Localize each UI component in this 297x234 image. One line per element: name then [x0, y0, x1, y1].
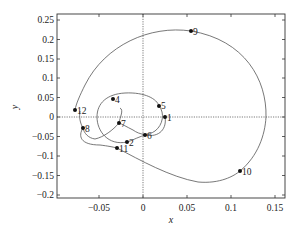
point-label: 7 — [121, 119, 126, 129]
y-tick-labels: 0.25 0.2 0.15 0.1 0.05 0 −0.05 −0.1 −0.1… — [32, 15, 54, 200]
point-label: 11 — [119, 144, 128, 154]
point-label: 10 — [242, 167, 252, 177]
y-tick-label: 0.1 — [42, 73, 54, 83]
point-label: 4 — [115, 95, 120, 105]
y-axis-title: y — [9, 104, 20, 110]
point-labels: 1 2 4 5 6 7 8 9 10 11 12 — [77, 27, 252, 177]
spiral-trajectory-chart: 0.25 0.2 0.15 0.1 0.05 0 −0.05 −0.1 −0.1… — [0, 0, 297, 234]
y-tick-label: 0.2 — [42, 35, 54, 45]
point-label: 1 — [167, 113, 172, 123]
point-label: 5 — [161, 101, 166, 111]
point-label: 9 — [193, 27, 198, 37]
y-tick-label: 0 — [49, 112, 54, 122]
data-points — [73, 29, 242, 173]
x-tick-label: 0.05 — [179, 203, 196, 213]
x-tick-label: −0.05 — [88, 203, 110, 213]
x-axis-title: x — [168, 214, 174, 225]
y-tick-label: −0.15 — [32, 171, 54, 181]
point-label: 2 — [129, 138, 134, 148]
trajectory-curve — [80, 93, 166, 143]
y-tick-label: −0.1 — [37, 151, 54, 161]
point-label: 12 — [77, 106, 87, 116]
trajectory-curve-outer — [75, 30, 266, 182]
point-label: 8 — [85, 124, 90, 134]
y-tick-label: 0.25 — [37, 15, 54, 25]
y-tick-label: 0.05 — [37, 93, 54, 103]
y-tick-label: −0.2 — [37, 190, 54, 200]
x-tick-label: 0 — [141, 203, 146, 213]
y-tick-label: −0.05 — [32, 132, 54, 142]
x-tick-label: 0.1 — [225, 203, 237, 213]
y-tick-label: 0.15 — [37, 54, 54, 64]
point-label: 6 — [147, 131, 152, 141]
x-tick-label: 0.15 — [267, 203, 284, 213]
x-tick-labels: −0.05 0 0.05 0.1 0.15 — [88, 203, 284, 213]
